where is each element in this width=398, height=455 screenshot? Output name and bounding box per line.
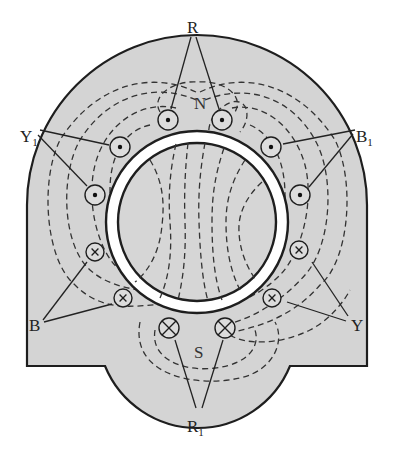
label-B: B [29, 316, 40, 335]
conductor-R1-cross-icon [215, 318, 235, 338]
pole-label-south: S [194, 343, 203, 362]
conductor-R-dot-icon [158, 110, 178, 130]
pole-label-north: N [194, 94, 206, 113]
conductor-B1-dot-icon [261, 137, 281, 157]
conductor-B1-dot-icon [290, 185, 310, 205]
label-B1: B1 [356, 127, 373, 148]
label-Y: Y [351, 316, 363, 335]
conductor-Y-cross-icon [290, 241, 308, 259]
conductor-Y1-dot-icon [85, 185, 105, 205]
conductor-Y1-dot-icon [110, 137, 130, 157]
rotor [106, 131, 288, 313]
electric-machine-diagram: N S R Y1 B1 B Y R1 [0, 0, 398, 455]
conductor-B-cross-icon [114, 289, 132, 307]
conductor-B-cross-icon [86, 243, 104, 261]
conductor-R1-cross-icon [159, 318, 179, 338]
conductor-R-dot-icon [212, 110, 232, 130]
label-Y1: Y1 [20, 127, 38, 148]
label-R: R [187, 18, 199, 37]
conductor-Y-cross-icon [263, 289, 281, 307]
